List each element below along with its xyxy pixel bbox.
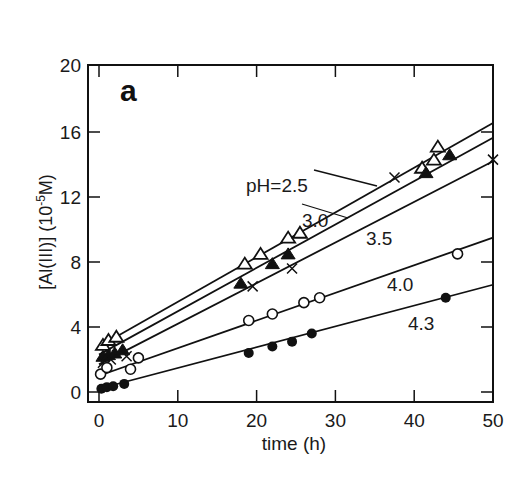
circle-open-marker xyxy=(102,363,112,373)
y-axis-label-main: [Al(III)] (10 xyxy=(36,206,56,290)
x-tick-label: 50 xyxy=(482,410,503,431)
circle-open-marker xyxy=(133,353,143,363)
series-label: 3.0 xyxy=(302,210,328,231)
circle-filled-marker xyxy=(244,348,254,358)
triangle-open-marker xyxy=(254,248,268,259)
circle-open-marker xyxy=(315,293,325,303)
series-label: 4.0 xyxy=(387,274,413,295)
axis-ticks xyxy=(88,65,493,402)
circle-open-marker xyxy=(299,298,309,308)
chart-figure: 01020304050048121620 pH=2.53.03.54.04.3 … xyxy=(0,0,528,483)
x-tick-label: 10 xyxy=(167,410,188,431)
fit-line-4.3 xyxy=(99,285,493,389)
x-tick-label: 30 xyxy=(325,410,346,431)
triangle-open-marker xyxy=(109,331,123,342)
leader-line xyxy=(314,170,377,186)
circle-filled-marker xyxy=(307,329,317,339)
y-tick-label: 12 xyxy=(60,187,81,208)
circle-filled-marker xyxy=(119,379,129,389)
x-tick-label: 20 xyxy=(246,410,267,431)
series-label: pH=2.5 xyxy=(246,175,308,196)
series-4.3 xyxy=(96,293,450,394)
series-label: 3.5 xyxy=(366,228,392,249)
series-label: 4.3 xyxy=(408,313,434,334)
triangle-open-marker xyxy=(431,141,445,152)
circle-open-marker xyxy=(267,309,277,319)
circle-filled-marker xyxy=(267,342,277,352)
y-tick-label: 20 xyxy=(60,55,81,76)
panel-label: a xyxy=(120,74,137,107)
circle-filled-marker xyxy=(287,337,297,347)
fit-line-4.0 xyxy=(99,238,493,376)
plot-frame xyxy=(88,65,493,402)
y-tick-label: 4 xyxy=(70,317,81,338)
x-axis-label: time (h) xyxy=(262,433,326,454)
x-tick-label: 0 xyxy=(94,410,105,431)
plot-border xyxy=(88,65,493,402)
y-tick-label: 0 xyxy=(70,382,81,403)
y-axis-label: [Al(III)] (10-5M) xyxy=(34,174,56,290)
x-tick-label: 40 xyxy=(404,410,425,431)
circle-open-marker xyxy=(453,249,463,259)
y-axis-label-sup: -5 xyxy=(34,195,48,206)
y-axis-label-end: M) xyxy=(36,174,56,195)
y-tick-label: 8 xyxy=(70,252,81,273)
triangle-open-marker xyxy=(238,258,252,269)
circle-open-marker xyxy=(126,364,136,374)
y-tick-label: 16 xyxy=(60,122,81,143)
circle-open-marker xyxy=(244,316,254,326)
circle-filled-marker xyxy=(108,381,118,391)
circle-filled-marker xyxy=(441,293,451,303)
